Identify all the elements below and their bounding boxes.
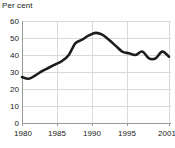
ytick-label-50: 50 (10, 34, 20, 43)
ytick-label-20: 20 (10, 85, 20, 94)
xtick-label-2001: 2001 (158, 129, 175, 138)
line-chart-plot: 60 50 40 30 20 10 0 1980 1985 1990 1995 … (0, 0, 175, 148)
xtick-label-1985: 1985 (48, 129, 67, 138)
ytick-label-60: 60 (10, 17, 20, 26)
ytick-label-10: 10 (10, 102, 20, 111)
ytick-label-30: 30 (10, 68, 20, 77)
ytick-label-0: 0 (14, 119, 19, 128)
xtick-label-1980: 1980 (14, 129, 33, 138)
xtick-label-1995: 1995 (118, 129, 137, 138)
xtick-label-1990: 1990 (83, 129, 102, 138)
x-axis-tick-labels: 1980 1985 1990 1995 2001 (14, 129, 175, 138)
chart-container: Per cent 6 (0, 0, 175, 148)
y-axis-tick-labels: 60 50 40 30 20 10 0 (10, 17, 20, 128)
ytick-label-40: 40 (10, 51, 20, 60)
